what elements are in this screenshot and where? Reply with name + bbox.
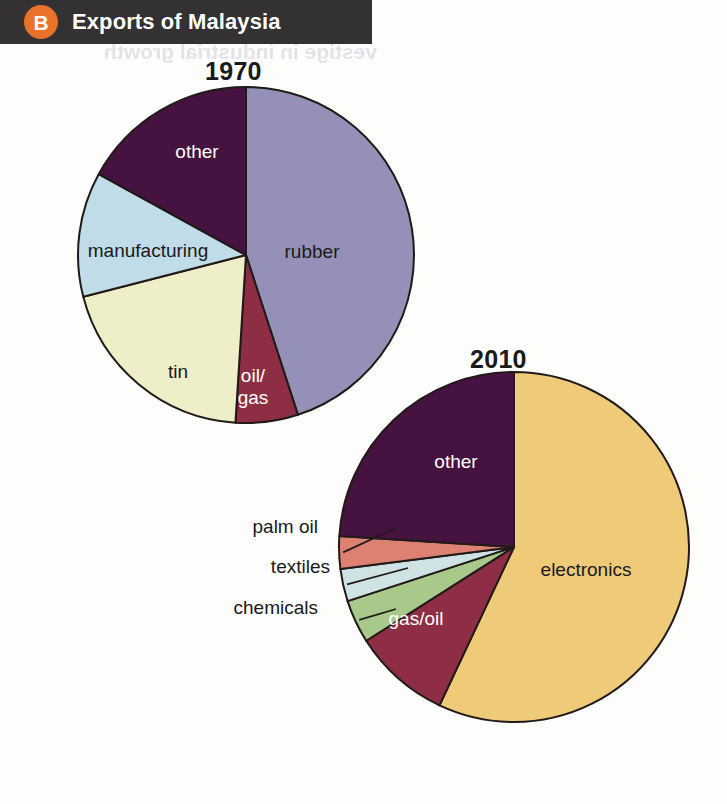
pie-label-tin: tin: [168, 361, 188, 382]
pie-slice-other[interactable]: [339, 372, 514, 547]
charts-canvas: rubberoil/gastinmanufacturingotherelectr…: [0, 0, 727, 804]
pie-label-gas-oil: gas/oil: [389, 608, 444, 629]
pie-label-chemicals: chemicals: [234, 597, 318, 618]
pie-chart-2010: [339, 372, 689, 722]
pie-label-textiles: textiles: [271, 556, 330, 577]
pie-label-other: other: [175, 141, 219, 162]
pie-label-rubber: rubber: [285, 241, 341, 262]
pie-label-manufacturing: manufacturing: [88, 240, 208, 261]
pie-label-electronics: electronics: [541, 559, 632, 580]
pie-label-other: other: [434, 451, 478, 472]
pie-label-palm-oil: palm oil: [253, 516, 318, 537]
pie-label-oil-gas: oil/gas: [238, 365, 269, 408]
